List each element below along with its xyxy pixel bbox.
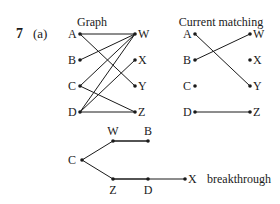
edge-b-w: [80, 34, 135, 60]
tree-edge-c-w: [82, 141, 113, 160]
match-edge-b-w: [195, 34, 250, 60]
graph-title: Graph: [77, 15, 107, 29]
tree-node-c: C: [68, 153, 76, 167]
matching-left-nodes: A B C D: [183, 27, 197, 119]
node-dot: [248, 58, 252, 62]
matching-node-b: B: [183, 53, 191, 67]
node-dot: [78, 58, 82, 62]
node-dot: [248, 110, 252, 114]
tree-node-d: D: [144, 183, 153, 197]
matching-right-nodes: W X Y Z: [248, 27, 265, 119]
node-dot: [193, 84, 197, 88]
graph-node-d: D: [68, 105, 77, 119]
question-number: 7: [16, 26, 23, 41]
matching-node-z: Z: [253, 105, 260, 119]
node-dot: [193, 58, 197, 62]
node-dot: [193, 32, 197, 36]
matching-node-d: D: [183, 105, 192, 119]
breakthrough-label: breakthrough: [207, 172, 271, 186]
graph-node-c: C: [68, 79, 76, 93]
graph-node-x: X: [138, 53, 147, 67]
graph-node-w: W: [138, 27, 150, 41]
matching-node-x: X: [253, 53, 262, 67]
matching-diagram: 7 (a) Graph A B C D W X Y Z Current matc…: [0, 0, 280, 204]
edge-d-x: [80, 60, 135, 112]
matching-node-w: W: [253, 27, 265, 41]
matching-node-c: C: [183, 79, 191, 93]
node-dot: [78, 110, 82, 114]
node-dot: [111, 139, 115, 143]
node-dot: [133, 110, 137, 114]
tree-node-z: Z: [109, 183, 116, 197]
node-dot: [248, 32, 252, 36]
node-dot: [183, 177, 187, 181]
tree-node-b: B: [144, 124, 152, 138]
node-dot: [193, 110, 197, 114]
match-edge-a-y: [195, 34, 250, 86]
tree-node-x: X: [188, 172, 197, 186]
node-dot: [78, 84, 82, 88]
node-dot: [80, 158, 84, 162]
matching-node-a: A: [183, 27, 192, 41]
matching-node-y: Y: [253, 79, 262, 93]
graph-node-a: A: [68, 27, 77, 41]
node-dot: [111, 177, 115, 181]
graph-node-z: Z: [138, 105, 145, 119]
alternating-tree: C W B Z D X breakthrough: [68, 124, 271, 197]
graph-left-nodes: A B C D: [68, 27, 82, 119]
node-dot: [248, 84, 252, 88]
node-dot: [133, 84, 137, 88]
node-dot: [146, 177, 150, 181]
graph-edges: [80, 34, 135, 112]
edge-c-z: [80, 86, 135, 112]
edge-d-w: [80, 34, 135, 112]
tree-node-w: W: [107, 124, 119, 138]
matching-edges: [195, 34, 250, 112]
graph-right-nodes: W X Y Z: [133, 27, 150, 119]
node-dot: [146, 139, 150, 143]
node-dot: [133, 32, 137, 36]
question-part: (a): [33, 26, 47, 41]
node-dot: [133, 58, 137, 62]
graph-node-y: Y: [138, 79, 147, 93]
node-dot: [78, 32, 82, 36]
graph-node-b: B: [68, 53, 76, 67]
tree-edge-c-z: [82, 160, 113, 179]
